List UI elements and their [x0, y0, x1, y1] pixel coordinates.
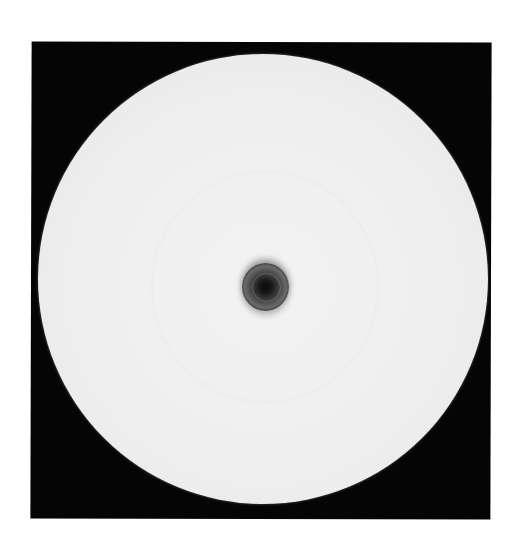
center-disk — [242, 263, 289, 311]
